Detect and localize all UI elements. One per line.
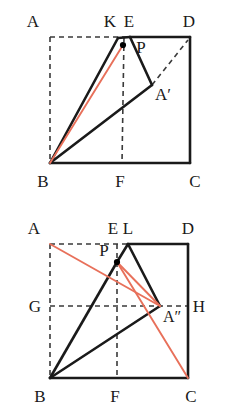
label-A: A bbox=[28, 219, 41, 238]
label-E: E bbox=[108, 219, 118, 238]
solid-segment-KE bbox=[118, 37, 130, 38]
red-segment-P-Adblprime bbox=[117, 262, 160, 306]
figure-top-red-lines bbox=[50, 45, 123, 163]
label-G: G bbox=[29, 297, 41, 316]
label-C: C bbox=[185, 387, 196, 406]
solid-segment-P-L bbox=[117, 244, 128, 262]
figure-top-svg: A K E D P A′ B F C bbox=[0, 0, 225, 207]
label-A-prime: A′ bbox=[155, 85, 171, 104]
solid-segment-Aprime-B bbox=[50, 85, 152, 163]
label-F: F bbox=[110, 387, 119, 406]
label-H: H bbox=[193, 297, 205, 316]
solid-segment-Adblprime-B bbox=[50, 306, 160, 378]
solid-segment-B-P bbox=[50, 262, 117, 378]
dashed-segment-EF bbox=[122, 37, 124, 163]
figure-top-panel: A K E D P A′ B F C bbox=[0, 0, 225, 207]
label-D: D bbox=[183, 12, 195, 31]
point-marker-P bbox=[120, 42, 126, 48]
figure-bottom-panel: A E L D P G A″ H B F C bbox=[0, 207, 225, 414]
label-P: P bbox=[136, 38, 145, 57]
red-segment-BP bbox=[50, 45, 123, 163]
label-K: K bbox=[104, 12, 117, 31]
label-F: F bbox=[115, 172, 124, 191]
label-D: D bbox=[182, 219, 194, 238]
figure-bottom-svg: A E L D P G A″ H B F C bbox=[0, 207, 225, 414]
point-marker-P bbox=[114, 259, 120, 265]
solid-segment-BK bbox=[50, 38, 118, 163]
label-P: P bbox=[99, 241, 108, 260]
label-L: L bbox=[123, 219, 133, 238]
figure-sheet: A K E D P A′ B F C bbox=[0, 0, 225, 414]
label-B: B bbox=[37, 172, 48, 191]
label-A: A bbox=[27, 12, 40, 31]
label-C: C bbox=[189, 172, 200, 191]
label-E: E bbox=[124, 12, 134, 31]
dashed-segment-Aprime-D bbox=[152, 40, 188, 85]
label-B: B bbox=[34, 387, 45, 406]
label-A-double-prime: A″ bbox=[163, 308, 181, 325]
